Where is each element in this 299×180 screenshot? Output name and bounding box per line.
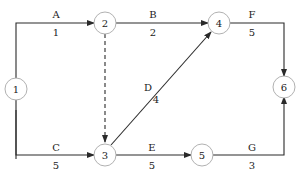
svg-text:4: 4 [216,18,222,29]
label-activity-b: B [149,9,156,20]
svg-text:2: 2 [102,18,108,29]
edge-f [230,23,284,76]
svg-text:5: 5 [199,150,205,161]
node-2: 2 [94,12,116,34]
node-5: 5 [191,144,213,166]
node-6: 6 [273,76,295,98]
edge-d [111,32,211,145]
svg-text:6: 6 [281,82,287,93]
label-duration-c: 5 [53,160,59,171]
label-duration-b: 2 [150,27,156,38]
edge-a [16,23,94,159]
label-activity-a: A [51,9,60,20]
label-activity-e: E [148,142,155,153]
node-4: 4 [208,12,230,34]
label-activity-g: G [248,142,256,153]
label-activity-d: D [144,82,152,93]
svg-text:1: 1 [13,84,19,95]
label-duration-d: 4 [153,94,159,105]
label-activity-f: F [249,9,256,20]
svg-text:3: 3 [102,150,108,161]
node-3: 3 [94,144,116,166]
label-duration-a: 1 [53,27,59,38]
label-duration-f: 5 [249,27,255,38]
label-duration-e: 5 [149,160,155,171]
node-1: 1 [5,78,27,100]
network-diagram: A 1 B 2 C 5 D 4 E 5 F 5 G 3 1 2 3 4 5 6 [0,0,299,180]
label-duration-g: 3 [249,160,255,171]
label-activity-c: C [52,142,60,153]
